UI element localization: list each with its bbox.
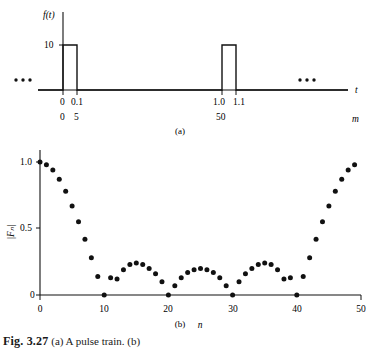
data-point bbox=[70, 203, 75, 208]
figure-caption: Fig. 3.27 (a) A pulse train. (b) bbox=[3, 334, 140, 349]
data-point bbox=[333, 189, 338, 194]
panel-b-x-tick-label-40: 40 bbox=[292, 304, 302, 314]
data-point bbox=[108, 275, 113, 280]
data-point bbox=[288, 275, 293, 280]
data-point bbox=[217, 275, 222, 280]
data-point bbox=[95, 274, 100, 279]
data-point bbox=[50, 167, 55, 172]
data-point bbox=[198, 266, 203, 271]
data-point bbox=[57, 177, 62, 182]
panel-a-t-tick-label-0: 0 bbox=[60, 97, 65, 107]
panel-b-x-tick-label-20: 20 bbox=[163, 304, 173, 314]
data-point bbox=[147, 266, 152, 271]
panel-a-left-ellipsis bbox=[14, 78, 31, 81]
data-point bbox=[301, 274, 306, 279]
data-point bbox=[192, 267, 197, 272]
panel-a-x-axis-label-t: t bbox=[355, 85, 358, 95]
data-point bbox=[89, 255, 94, 260]
data-point bbox=[339, 177, 344, 182]
data-point bbox=[127, 262, 132, 267]
data-point bbox=[76, 219, 81, 224]
panel-a-waveform bbox=[38, 45, 348, 90]
panel-b-y-axis-label: |Fₙ| bbox=[6, 224, 16, 239]
panel-b-y-tick-label-0: 0 bbox=[30, 290, 35, 300]
panel-b-x-tick-label-0: 0 bbox=[38, 304, 43, 314]
data-point bbox=[44, 162, 49, 167]
panel-b-x-tick-label-50: 50 bbox=[356, 304, 366, 314]
data-point bbox=[269, 262, 274, 267]
data-point bbox=[352, 162, 357, 167]
data-point bbox=[211, 270, 216, 275]
panel-a-y-tick-label: 10 bbox=[44, 40, 54, 50]
panel-a-t-tick-label-01: 0.1 bbox=[71, 97, 83, 107]
data-point bbox=[121, 267, 126, 272]
data-point bbox=[82, 237, 87, 242]
panel-b-y-tick-label-0.5: 0.5 bbox=[20, 223, 32, 233]
data-point bbox=[134, 261, 139, 266]
data-point bbox=[230, 293, 235, 298]
data-point bbox=[102, 293, 107, 298]
panel-b-x-tick-label-30: 30 bbox=[228, 304, 238, 314]
data-point bbox=[179, 275, 184, 280]
panel-a-x-axis-label-m: m bbox=[352, 114, 359, 124]
panel-a-y-axis-label: f(t) bbox=[43, 10, 55, 21]
data-point bbox=[249, 266, 254, 271]
data-point bbox=[166, 293, 171, 298]
panel-a-m-tick-label-0: 0 bbox=[60, 112, 65, 122]
panel-a-chart: f(t) 10 0 0.1 1.0 1.1 0 5 50 t m bbox=[0, 0, 375, 132]
panel-b-label-container: (b) bbox=[0, 316, 375, 332]
panel-a-t-tick-label-10: 1.0 bbox=[213, 97, 225, 107]
data-point bbox=[262, 261, 267, 266]
data-point bbox=[326, 203, 331, 208]
data-point bbox=[346, 167, 351, 172]
panel-a-m-tick-label-5: 5 bbox=[74, 112, 79, 122]
panel-b-label: (b) bbox=[175, 319, 186, 329]
panel-a-label-container: (a) bbox=[0, 124, 375, 138]
figure-caption-text: (a) A pulse train. (b) bbox=[51, 335, 140, 347]
data-point bbox=[320, 219, 325, 224]
panel-a-t-tick-label-11: 1.1 bbox=[233, 97, 245, 107]
panel-a-m-tick-label-50: 50 bbox=[216, 112, 226, 122]
panel-b-x-tick-label-10: 10 bbox=[99, 304, 109, 314]
data-point bbox=[63, 189, 68, 194]
panel-b-data-points bbox=[38, 160, 358, 298]
panel-b-y-tick-label-1.0: 1.0 bbox=[20, 157, 32, 167]
data-point bbox=[115, 277, 120, 282]
data-point bbox=[237, 279, 242, 284]
data-point bbox=[314, 237, 319, 242]
data-point bbox=[159, 279, 164, 284]
data-point bbox=[172, 283, 177, 288]
data-point bbox=[256, 262, 261, 267]
data-point bbox=[224, 283, 229, 288]
data-point bbox=[294, 293, 299, 298]
data-point bbox=[307, 255, 312, 260]
data-point bbox=[275, 267, 280, 272]
data-point bbox=[185, 270, 190, 275]
data-point bbox=[243, 271, 248, 276]
figure-caption-number: Fig. 3.27 bbox=[3, 334, 48, 348]
data-point bbox=[204, 267, 209, 272]
data-point bbox=[281, 277, 286, 282]
data-point bbox=[38, 160, 43, 165]
data-point bbox=[140, 262, 145, 267]
panel-a-right-ellipsis bbox=[298, 78, 315, 81]
panel-b-chart: 1.0 0.5 0 |Fₙ| 0 10 20 30 40 50 n bbox=[0, 140, 375, 330]
panel-a-label: (a) bbox=[175, 126, 185, 136]
data-point bbox=[153, 271, 158, 276]
